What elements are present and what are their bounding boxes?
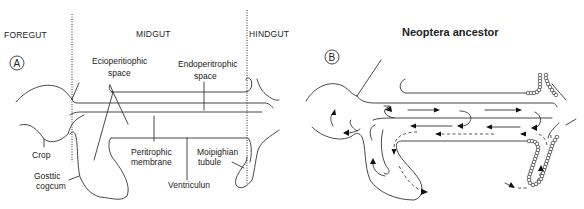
flow-arrows bbox=[331, 106, 551, 195]
panel-b: Neoptera ancestor B bbox=[306, 26, 576, 200]
panel-b-title: Neoptera ancestor bbox=[402, 26, 499, 38]
panel-b-marker: B bbox=[325, 50, 339, 64]
ectoperitrophic-space-label-2: space bbox=[108, 68, 131, 78]
peritrophic-membrane-label: Peritrophic bbox=[131, 147, 172, 157]
svg-text:B: B bbox=[329, 52, 336, 63]
foregut-label: FOREGUT bbox=[4, 30, 47, 40]
endoperitrophic-space-label-2: space bbox=[194, 71, 217, 81]
malpighian-tubule-label: Moipighian bbox=[197, 147, 238, 157]
ectoperitrophic-space-label: Ecioperitiophic bbox=[92, 56, 148, 66]
panel-a-marker: A bbox=[10, 56, 24, 70]
hindgut-label: HINDGUT bbox=[249, 29, 289, 39]
crop-label: Crop bbox=[32, 150, 51, 160]
gut-diagram-figure: FOREGUT MIDGUT HINDGUT A Ecioperitiophic… bbox=[0, 0, 584, 209]
midgut-label: MIDGUT bbox=[136, 29, 171, 39]
svg-text:A: A bbox=[14, 58, 21, 69]
endoperitrophic-space-label: Endoperitrophic bbox=[178, 59, 238, 69]
gastric-caecum-label-2: cogcum bbox=[36, 181, 66, 191]
gastric-caecum-label: Gosttic bbox=[34, 171, 61, 181]
panel-a: FOREGUT MIDGUT HINDGUT A Ecioperitiophic… bbox=[4, 10, 289, 199]
malpighian-tubule-label-2: tubule bbox=[198, 157, 221, 167]
peritrophic-membrane-label-2: membrane bbox=[131, 157, 172, 167]
ventriculus-label: Ventriculun bbox=[168, 180, 210, 190]
